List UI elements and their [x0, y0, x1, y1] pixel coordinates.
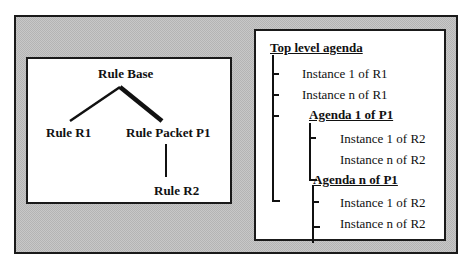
agenda-item: Instance n of R2: [340, 217, 426, 231]
agenda-hierarchy-panel: Top level agenda Instance 1 of R1 Instan…: [254, 29, 446, 241]
sub-agenda-heading: Agenda n of P1: [313, 173, 398, 187]
sub-agenda-heading: Agenda 1 of P1: [309, 108, 393, 122]
agenda-item: Instance 1 of R1: [302, 67, 388, 81]
agenda-item: Instance 1 of R2: [340, 132, 426, 146]
agenda-item: Instance n of R2: [340, 153, 426, 167]
node-rule-r1: Rule R1: [46, 126, 91, 140]
rule-base-tree-panel: Rule Base Rule R1 Rule Packet P1 Rule R2: [26, 57, 232, 204]
node-rule-packet-p1: Rule Packet P1: [126, 126, 210, 140]
node-rule-r2: Rule R2: [154, 184, 199, 198]
node-rule-base: Rule Base: [98, 67, 153, 81]
agenda-item: Instance 1 of R2: [340, 196, 426, 210]
agenda-root-label: Top level agenda: [270, 41, 363, 55]
agenda-item: Instance n of R1: [302, 88, 388, 102]
